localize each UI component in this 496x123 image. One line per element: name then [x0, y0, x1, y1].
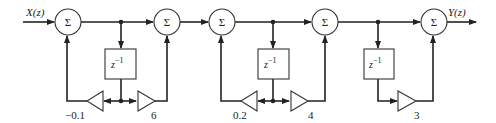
junction-dot [119, 99, 124, 104]
gain-triangle-neg0.1 [87, 91, 103, 111]
junction-dot [271, 20, 276, 25]
sigma-label: Σ [164, 16, 170, 28]
gain-triangle-0.2 [241, 91, 257, 111]
block-diagram: Σ Σ Σ Σ Σ z−1 z−1 z−1 −0.1 6 0.2 4 3 X(z… [0, 0, 496, 123]
delay-exp: −1 [373, 56, 382, 65]
feedforward-path-1 [155, 36, 167, 101]
junction-dot [119, 20, 124, 25]
delay-exp: −1 [268, 56, 277, 65]
junction-dot [271, 99, 276, 104]
feedforward-path-3 [416, 36, 433, 101]
gain-triangle-4 [291, 91, 308, 111]
gain-label: 4 [308, 109, 314, 121]
output-label: Y(z) [448, 6, 466, 19]
sigma-label: Σ [431, 16, 437, 28]
gain-label: −0.1 [65, 109, 85, 121]
feedback-path-2 [221, 36, 241, 101]
sigma-label: Σ [322, 16, 328, 28]
sigma-label: Σ [65, 16, 71, 28]
gain-label: 0.2 [233, 109, 247, 121]
sigma-label: Σ [219, 16, 225, 28]
to-gain-3 [378, 79, 397, 101]
delay-exp: −1 [115, 56, 124, 65]
diagram-svg: Σ Σ Σ Σ Σ z−1 z−1 z−1 −0.1 6 0.2 4 3 X(z… [0, 0, 496, 123]
gain-label: 6 [151, 109, 157, 121]
junction-dot [376, 20, 381, 25]
feedforward-path-2 [308, 36, 325, 101]
gain-triangle-6 [138, 91, 155, 111]
gain-label: 3 [414, 109, 420, 121]
feedback-path-1 [67, 36, 87, 101]
input-label: X(z) [25, 6, 45, 19]
gain-triangle-3 [398, 91, 416, 111]
